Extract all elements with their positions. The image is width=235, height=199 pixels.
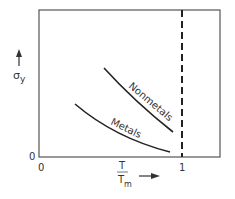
x-one-label: 1 [179,162,185,173]
x-axis-denominator-subscript: m [124,180,132,189]
x-axis-arrow-icon [151,173,160,179]
chart: Nonmetals Metals σ y 0 0 1 T T m [0,0,235,199]
y-axis-symbol: σ [13,69,20,82]
y-zero-label: 0 [29,151,35,162]
y-axis-subscript: y [20,74,26,84]
x-zero-label: 0 [38,162,44,173]
y-axis-arrow-icon [16,49,22,57]
x-axis-numerator: T [118,160,126,171]
nonmetals-label: Nonmetals [127,80,175,123]
